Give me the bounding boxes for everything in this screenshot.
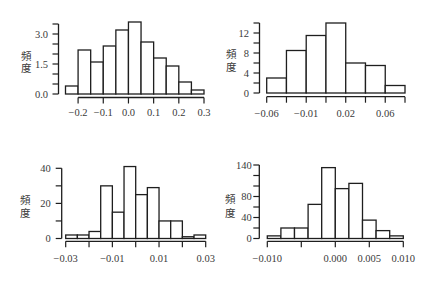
y-axis-label: 頻度 (226, 48, 237, 73)
x-tick-label: −0.2 (69, 107, 88, 118)
histogram-bar (182, 237, 194, 239)
x-tick-label: 0.010 (391, 253, 415, 264)
histogram-bars (267, 23, 405, 93)
x-tick-label: 0.3 (197, 107, 210, 118)
histogram-bar (77, 235, 89, 239)
x-tick-label: 0.1 (147, 107, 160, 118)
y-axis-label-char: 頻 (20, 194, 31, 206)
x-axis: −0.2−0.10.00.10.20.3 (69, 98, 211, 118)
histogram-bar (308, 204, 322, 238)
x-tick-label: 0.02 (337, 108, 355, 119)
histogram-bar (306, 36, 326, 94)
x-tick-label: −0.010 (253, 253, 283, 264)
histogram-panel-bottom-left: 02040−0.03−0.010.010.03頻度 (20, 163, 215, 264)
histogram-panel-top-left: 0.01.53.0−0.2−0.10.00.10.20.3頻度 (21, 22, 211, 118)
x-tick-label: −0.01 (294, 108, 318, 119)
histogram-bar (363, 220, 377, 238)
y-axis-label-char: 頻 (225, 193, 236, 205)
histogram-bar (159, 221, 171, 239)
x-axis: −0.03−0.010.010.03 (54, 241, 215, 264)
y-tick-label: 8 (244, 48, 249, 59)
x-tick-label: −0.1 (94, 107, 113, 118)
y-axis: 04812 (239, 23, 260, 99)
y-tick-label: 140 (236, 160, 252, 171)
histogram-bar (136, 195, 148, 239)
y-tick-label: 20 (40, 198, 51, 209)
y-axis: 04080140 (236, 160, 259, 245)
histogram-bar (166, 66, 179, 94)
histogram-bar (376, 231, 390, 239)
histogram-bar (66, 235, 78, 239)
histogram-bar (385, 86, 405, 94)
histogram-bars (66, 22, 205, 94)
histogram-bar (78, 50, 91, 94)
y-axis-label-char: 度 (21, 62, 32, 74)
histogram-bar (191, 90, 204, 94)
x-tick-label: 0.03 (197, 253, 215, 264)
histogram-bar (154, 58, 167, 94)
y-tick-label: 40 (241, 212, 252, 223)
y-tick-label: 0 (246, 233, 251, 244)
histogram-bar (101, 186, 113, 239)
histogram-grid-figure: 0.01.53.0−0.2−0.10.00.10.20.3頻度 04812−0.… (0, 0, 422, 282)
histogram-panel-top-right: 04812−0.06−0.010.020.06頻度 (226, 23, 405, 119)
histogram-figure-page: 0.01.53.0−0.2−0.10.00.10.20.3頻度 04812−0.… (0, 0, 422, 282)
x-tick-label: 0.01 (150, 253, 168, 264)
histogram-bar (349, 183, 363, 238)
x-tick-label: 0.2 (172, 107, 185, 118)
histogram-bars (66, 167, 206, 239)
y-tick-label: 4 (244, 68, 250, 79)
histogram-bar (103, 46, 116, 94)
y-tick-label: 0.0 (35, 89, 48, 100)
y-tick-label: 12 (239, 28, 250, 39)
histogram-bar (147, 188, 159, 239)
y-axis-label-char: 頻 (226, 48, 237, 60)
x-tick-label: 0.0 (122, 107, 135, 118)
histogram-bar (66, 86, 79, 94)
histogram-bar (295, 228, 309, 239)
x-axis: −0.06−0.010.020.06 (255, 97, 405, 119)
histogram-bar (281, 228, 295, 239)
x-tick-label: −0.01 (100, 253, 124, 264)
x-tick-label: 0.06 (376, 108, 394, 119)
x-tick-label: −0.06 (255, 108, 279, 119)
y-axis-label: 頻度 (225, 193, 236, 219)
y-axis-label: 頻度 (21, 50, 32, 74)
histogram-bar (267, 78, 287, 93)
histogram-bar (141, 42, 154, 94)
x-tick-label: −0.03 (54, 253, 78, 264)
histogram-panel-bottom-right: 04080140−0.0100.0000.0050.010頻度 (225, 160, 416, 264)
y-tick-label: 80 (241, 191, 252, 202)
y-tick-label: 3.0 (35, 29, 48, 40)
y-axis-label-char: 度 (20, 207, 31, 219)
y-axis: 02040 (40, 163, 62, 244)
y-tick-label: 0 (45, 233, 50, 244)
y-tick-label: 1.5 (35, 59, 48, 70)
histogram-bar (116, 30, 129, 94)
histogram-bar (89, 231, 101, 238)
y-axis: 0.01.53.0 (35, 24, 59, 100)
x-tick-label: 0.000 (323, 253, 347, 264)
histogram-bar (171, 221, 183, 239)
histogram-bar (112, 212, 124, 238)
histogram-bar (322, 168, 336, 239)
histogram-bar (365, 66, 385, 94)
y-axis-label: 頻度 (20, 194, 31, 220)
y-tick-label: 40 (40, 163, 51, 174)
x-tick-label: 0.005 (357, 253, 381, 264)
histogram-bar (326, 23, 346, 93)
histogram-bar (346, 63, 366, 93)
x-axis: −0.0100.0000.0050.010 (253, 241, 416, 264)
y-tick-label: 0 (244, 88, 249, 99)
histogram-bars (267, 168, 403, 239)
histogram-bar (179, 82, 192, 94)
histogram-bar (128, 22, 141, 94)
y-axis-label-char: 度 (225, 207, 236, 219)
y-axis-label-char: 度 (226, 61, 237, 73)
histogram-bar (124, 167, 136, 239)
histogram-bar (194, 235, 206, 239)
histogram-bar (286, 51, 306, 94)
histogram-bar (91, 62, 104, 94)
histogram-bar (335, 189, 349, 239)
histogram-bar (267, 236, 281, 239)
